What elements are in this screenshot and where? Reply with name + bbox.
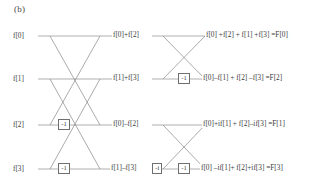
output-label-0: f[0] +f[2] + f[1] +f[3] =F[0] — [205, 30, 289, 39]
stage1-output-2: f[0]–f[2] — [112, 119, 140, 128]
input-label-2: f[2] — [12, 120, 25, 129]
twiddle-box-stage2-row4[interactable]: -1 — [178, 163, 190, 174]
input-label-0: f[0] — [12, 31, 25, 40]
output-label-3: f[0] –if[1]+ f[2]+if[3] =F[3] — [200, 163, 284, 172]
stage1-output-1: f[1]+f[3] — [112, 73, 140, 82]
figure-panel: (b) f[0] f[1] f[2] f[3] -1 -1 f[0]+f[2] … — [0, 0, 320, 192]
stage1-output-3: f[1]–f[3] — [110, 163, 138, 172]
twiddle-box-stage1-row4[interactable]: -1 — [58, 163, 70, 174]
input-label-3: f[3] — [12, 164, 25, 173]
twiddle-box-stage2-row4-i[interactable]: -i — [152, 163, 162, 174]
twiddle-box-stage1-row3[interactable]: -1 — [58, 119, 70, 130]
twiddle-box-stage2-row2[interactable]: -1 — [178, 73, 190, 84]
output-label-2: f[0]+if[1] + f[2]–if[3] =F[1] — [202, 119, 286, 128]
output-label-1: f[0]–f[1] + f[2] –f[3] =F[2] — [202, 73, 283, 82]
input-label-1: f[1] — [12, 74, 25, 83]
stage1-output-0: f[0]+f[2] — [112, 30, 140, 39]
